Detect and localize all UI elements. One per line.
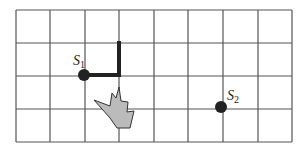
path-from-s1: [84, 43, 119, 75]
flame-obstacle-icon: [94, 87, 134, 128]
point-s1-label: S1: [73, 53, 85, 70]
point-s2-label: S2: [227, 88, 239, 105]
point-s1-dot: [78, 69, 90, 81]
point-s2-dot: [215, 101, 227, 113]
grid-diagram: S1S2: [0, 0, 305, 146]
grid-lines: [16, 10, 292, 142]
